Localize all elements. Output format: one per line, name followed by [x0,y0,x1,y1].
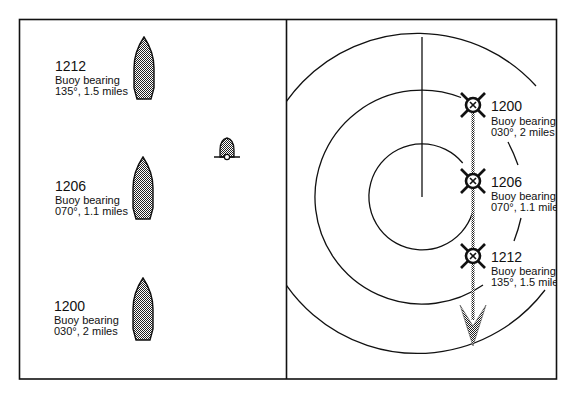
diagram-canvas: 1212 Buoy bearing 135°, 1.5 miles 1206 B… [0,0,575,394]
range-ring-inner [369,144,472,250]
range-ring-outer-segment [514,218,521,241]
buoy-plot-1206: 1206 Buoy bearing 070°, 1.1 miles [461,169,564,213]
boat-1212: 1212 Buoy bearing 135°, 1.5 miles [55,37,154,99]
boat-time-label: 1212 [55,58,86,74]
plot-time-label: 1206 [491,174,522,190]
boat-range-label: 070°, 1.1 miles [55,205,128,217]
range-ring-outer-segment [508,142,518,165]
buoy-plot-1200: 1200 Buoy bearing 030°, 2 miles [461,93,556,138]
relative-motion-arrow [460,108,486,346]
boat-range-label: 135°, 1.5 miles [55,85,128,97]
bell-buoy-icon [214,138,240,160]
plot-range-label: 135°, 1.5 miles [491,276,564,288]
boat-range-label: 030°, 2 miles [54,325,118,337]
plot-range-label: 030°, 2 miles [491,126,555,138]
range-ring-middle [315,90,483,304]
plot-time-label: 1212 [491,249,522,265]
plot-range-label: 070°, 1.1 miles [491,201,564,213]
boat-1206: 1206 Buoy bearing 070°, 1.1 miles [55,157,153,219]
plot-time-label: 1200 [491,98,522,114]
radar-plot-view: 1200 Buoy bearing 030°, 2 miles 1206 Buo… [257,33,564,353]
buoy-plot-1212: 1212 Buoy bearing 135°, 1.5 miles [461,244,564,288]
boat-1200: 1200 Buoy bearing 030°, 2 miles [54,278,153,340]
boat-icon [134,37,154,99]
boat-time-label: 1206 [55,178,86,194]
boat-icon [133,157,153,219]
boat-icon [133,278,153,340]
boat-time-label: 1200 [54,298,85,314]
relative-motion-view: 1212 Buoy bearing 135°, 1.5 miles 1206 B… [54,37,240,340]
